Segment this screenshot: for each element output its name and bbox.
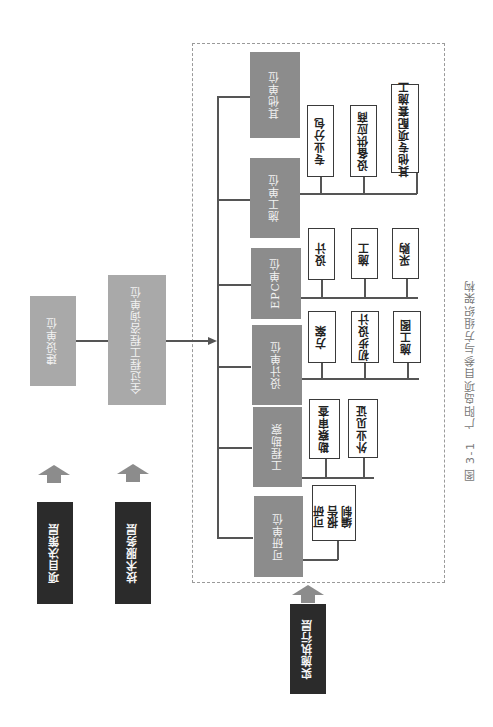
child-stem xyxy=(416,172,418,194)
up-arrow-icon xyxy=(117,464,149,482)
spine-branch xyxy=(217,537,253,539)
child-box: 方案 xyxy=(308,311,336,363)
figure-caption-text: 图 3-1 广阳岛项目参与方组织架构 xyxy=(463,279,479,481)
spine-branch xyxy=(217,199,251,201)
child-label: 可研报告编制 xyxy=(313,498,355,528)
unit-box-design: 设计单位 xyxy=(252,325,302,405)
child-stem xyxy=(321,362,323,379)
child-box: 可研报告编制 xyxy=(312,485,356,541)
unit-box-construction: 施工单位 xyxy=(250,158,300,238)
child-box: 施工图 xyxy=(393,311,421,363)
layer-decision-label: 项目决策层 xyxy=(47,523,63,583)
child-box: 采购 xyxy=(392,228,419,279)
child-box: 初步设计 xyxy=(351,311,379,363)
child-stem xyxy=(406,278,408,298)
figure-caption: 图 3-1 广阳岛项目参与方组织架构 xyxy=(461,285,481,475)
arrowhead-right-icon xyxy=(208,337,217,345)
child-label: 方案 xyxy=(314,325,330,349)
consultant-unit-box: 全过程工程咨询单位 xyxy=(108,275,166,405)
consultant-unit-label: 全过程工程咨询单位 xyxy=(129,286,145,394)
unit-label: 施工单位 xyxy=(267,174,283,222)
child-stem xyxy=(321,279,323,298)
unit-label: 设计单位 xyxy=(269,341,285,389)
child-stem xyxy=(363,458,365,478)
child-box: 设计 xyxy=(308,228,335,280)
child-label: 施工图 xyxy=(399,319,415,355)
child-stem xyxy=(364,362,366,379)
unit-label: 工程勘察 xyxy=(270,423,286,471)
spine-branch xyxy=(217,284,251,286)
owner-unit-box: 建设单位 xyxy=(30,296,76,386)
unit-box-other: 其他单位 xyxy=(250,52,300,138)
child-bus xyxy=(301,297,418,299)
layer-execution-box: 实施执行层 xyxy=(290,604,326,694)
child-box: 设备供应商 xyxy=(350,105,377,177)
child-label: 勘察审查 xyxy=(317,405,333,453)
child-label: 外业见证 xyxy=(355,405,371,453)
spine-branch xyxy=(217,366,251,368)
spine-branch xyxy=(217,447,252,449)
child-label: 专业分包 xyxy=(313,117,329,165)
up-arrow-icon xyxy=(292,585,324,603)
child-label: 初步设计 xyxy=(357,313,373,361)
child-stem xyxy=(363,176,365,194)
child-bus xyxy=(303,559,338,561)
layer-technical-box: 技术服务层 xyxy=(115,502,151,604)
units-spine-line xyxy=(217,96,219,538)
unit-label: 其他单位 xyxy=(267,71,283,119)
child-label: 采购 xyxy=(398,242,414,266)
child-box: 勘察审查 xyxy=(309,399,340,459)
child-stem xyxy=(364,278,366,298)
owner-unit-label: 建设单位 xyxy=(45,317,61,365)
child-stem xyxy=(320,176,322,194)
up-arrow-icon xyxy=(38,465,70,483)
child-bus xyxy=(302,378,419,380)
layer-technical-label: 技术服务层 xyxy=(125,523,141,583)
child-label: 设备供应商 xyxy=(356,111,372,171)
child-stem xyxy=(407,362,409,379)
child-label: 其他专项配套施工 xyxy=(397,81,413,177)
unit-box-feasibility: 可研单位 xyxy=(254,496,303,577)
layer-decision-box: 项目决策层 xyxy=(37,502,73,604)
layer-execution-label: 实施执行层 xyxy=(300,619,316,679)
child-box: 其他专项配套施工 xyxy=(391,84,419,173)
child-label: 设计 xyxy=(314,242,330,266)
owner-to-consultant-line xyxy=(76,340,108,342)
unit-label: EPC单位 xyxy=(268,258,284,309)
spine-branch xyxy=(217,96,251,98)
unit-label: 可研单位 xyxy=(271,513,287,561)
child-box: 外业见证 xyxy=(348,399,378,458)
unit-box-epc: EPC单位 xyxy=(251,248,301,319)
unit-box-survey: 工程勘察 xyxy=(253,407,302,487)
child-stem xyxy=(337,540,339,560)
child-box: 施工 xyxy=(351,228,378,279)
child-bus xyxy=(300,193,417,195)
consultant-to-units-line xyxy=(166,340,214,342)
child-stem xyxy=(325,458,327,478)
child-box: 专业分包 xyxy=(307,105,334,177)
child-label: 施工 xyxy=(357,242,373,266)
